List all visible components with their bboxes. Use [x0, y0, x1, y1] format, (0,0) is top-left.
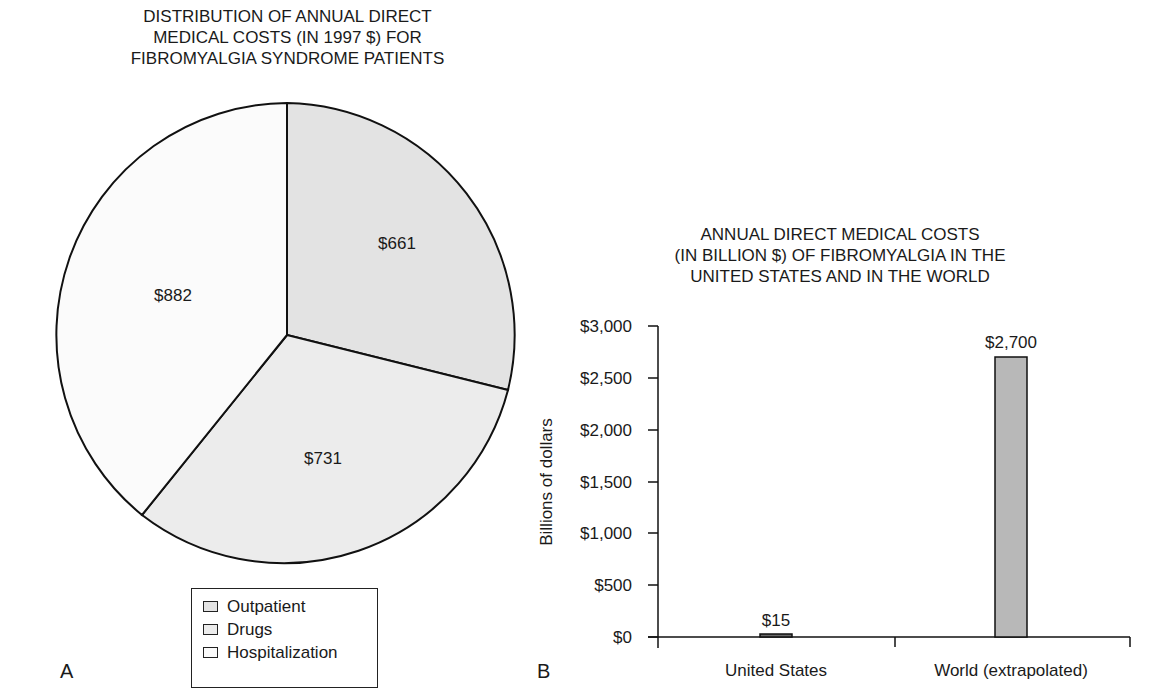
- legend-item-outpatient: Outpatient: [203, 595, 377, 618]
- pie-legend: Outpatient Drugs Hospitalization: [191, 588, 378, 688]
- legend-item-drugs: Drugs: [203, 618, 377, 641]
- x-category-united-states: United States: [725, 661, 827, 680]
- panel-label-b: B: [537, 660, 550, 683]
- y-tick-label: $0: [613, 628, 632, 647]
- bar-world: [995, 357, 1027, 637]
- legend-item-hospitalization: Hospitalization: [203, 641, 377, 664]
- bar-value-world: $2,700: [985, 333, 1037, 352]
- legend-label-hospitalization: Hospitalization: [227, 643, 338, 663]
- legend-label-drugs: Drugs: [227, 620, 272, 640]
- y-tick-label: $3,000: [580, 317, 632, 336]
- legend-swatch-outpatient: [203, 601, 218, 612]
- legend-swatch-hospitalization: [203, 647, 218, 658]
- bar-united-states: [760, 634, 792, 637]
- bar-value-united-states: $15: [762, 611, 790, 630]
- y-tick-label: $2,500: [580, 369, 632, 388]
- panel-label-a: A: [60, 660, 73, 683]
- legend-swatch-drugs: [203, 624, 218, 635]
- pie-chart: $661 $731 $882: [56, 103, 514, 563]
- legend-label-outpatient: Outpatient: [227, 597, 305, 617]
- y-ticks: $0 $500 $1,000 $1,500 $2,000 $2,500 $3,0…: [580, 317, 658, 647]
- y-tick-label: $1,500: [580, 473, 632, 492]
- pie-label-hospitalization: $882: [154, 286, 192, 305]
- y-tick-label: $500: [594, 576, 632, 595]
- pie-label-outpatient: $661: [378, 234, 416, 253]
- y-axis-label: Billions of dollars: [537, 418, 556, 546]
- y-tick-label: $2,000: [580, 421, 632, 440]
- bar-chart: $0 $500 $1,000 $1,500 $2,000 $2,500 $3,0…: [537, 317, 1130, 680]
- y-tick-label: $1,000: [580, 524, 632, 543]
- x-category-world: World (extrapolated): [934, 661, 1088, 680]
- pie-label-drugs: $731: [304, 449, 342, 468]
